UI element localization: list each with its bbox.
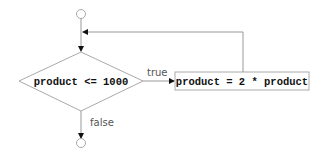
false-label: false [90, 117, 114, 128]
start-node [77, 10, 86, 19]
true-label: true [147, 67, 168, 78]
action-label: product = 2 * product [176, 76, 308, 88]
flowchart-canvas: product <= 1000 true product = 2 * produ… [0, 0, 326, 161]
decision-label: product <= 1000 [34, 76, 129, 88]
end-node [77, 139, 86, 148]
